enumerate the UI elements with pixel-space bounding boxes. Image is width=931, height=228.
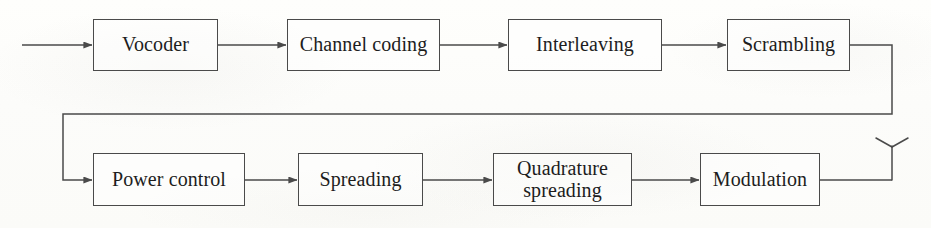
node-channel-coding[interactable]: Channel coding — [287, 19, 440, 71]
node-label: Scrambling — [737, 34, 840, 56]
node-label: Modulation — [708, 169, 812, 191]
antenna-icon — [876, 138, 908, 180]
node-label: Power control — [107, 169, 231, 191]
node-label: Vocoder — [117, 34, 194, 56]
node-power-control[interactable]: Power control — [93, 153, 245, 206]
node-label: Channel coding — [295, 34, 432, 56]
node-label: Interleaving — [531, 34, 639, 56]
node-label: Quadrature spreading — [512, 158, 613, 201]
node-label: Spreading — [315, 169, 407, 191]
node-spreading[interactable]: Spreading — [298, 153, 423, 206]
node-modulation[interactable]: Modulation — [700, 153, 820, 206]
node-vocoder[interactable]: Vocoder — [93, 19, 218, 71]
node-quadrature-spreading[interactable]: Quadrature spreading — [493, 153, 632, 206]
node-scrambling[interactable]: Scrambling — [727, 19, 850, 71]
node-interleaving[interactable]: Interleaving — [508, 19, 662, 71]
block-diagram-canvas: Vocoder Channel coding Interleaving Scra… — [0, 0, 931, 228]
